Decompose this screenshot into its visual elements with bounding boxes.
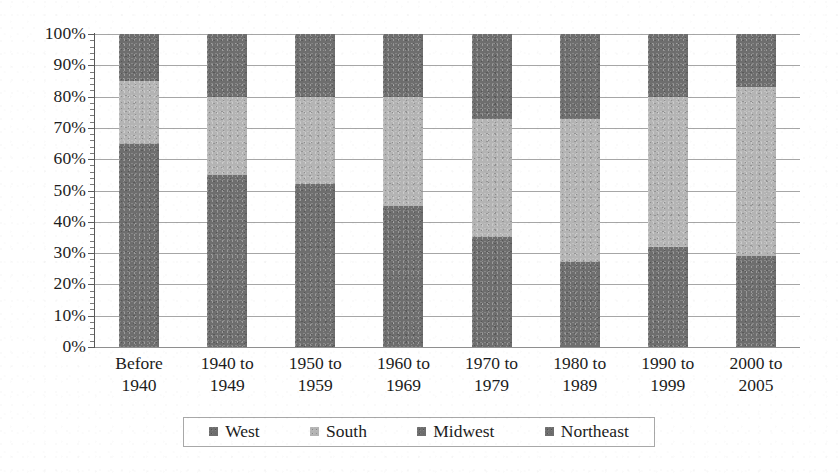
bar-segment-south[interactable] — [648, 97, 688, 247]
bar-group[interactable] — [472, 34, 512, 347]
y-axis-tick-label: 50% — [54, 182, 86, 200]
bar-segment-west[interactable] — [119, 34, 159, 81]
x-axis-tick-label-line: 1970 to — [448, 352, 536, 374]
x-axis-tick-label-line: 1959 — [271, 374, 359, 396]
bar-segment-northeast[interactable] — [383, 272, 423, 347]
bar-segment-midwest[interactable] — [295, 184, 335, 259]
stacked-bar[interactable] — [736, 34, 776, 347]
y-axis-tick-label: 10% — [54, 307, 86, 325]
x-axis-tick-label-line: 1940 — [95, 374, 183, 396]
stacked-bar[interactable] — [207, 34, 247, 347]
axis-baseline — [95, 347, 800, 348]
bar-group[interactable] — [295, 34, 335, 347]
bar-segment-midwest[interactable] — [736, 256, 776, 294]
x-axis-tick-label-line: 1940 to — [183, 352, 271, 374]
gridline — [95, 159, 800, 160]
square-swatch-icon — [417, 427, 426, 436]
x-axis-tick-label-line: 1950 to — [271, 352, 359, 374]
x-axis-tick-label-line: 1980 to — [536, 352, 624, 374]
bar-segment-south[interactable] — [383, 97, 423, 207]
x-axis-tick-label-line: 1949 — [183, 374, 271, 396]
bar-segment-midwest[interactable] — [207, 175, 247, 256]
y-axis-tick-label: 20% — [54, 276, 86, 294]
bar-segment-northeast[interactable] — [472, 288, 512, 347]
bar-segment-south[interactable] — [119, 81, 159, 144]
bar-group[interactable] — [383, 34, 423, 347]
x-axis-tick-label: 1940 to1949 — [183, 352, 271, 396]
legend-item-label: Northeast — [561, 423, 629, 441]
bar-segment-west[interactable] — [560, 34, 600, 119]
x-axis-tick-label-line: 1979 — [448, 374, 536, 396]
bar-group[interactable] — [119, 34, 159, 347]
bar-segment-northeast[interactable] — [736, 294, 776, 347]
bar-segment-midwest[interactable] — [383, 206, 423, 272]
x-axis-labels: Before19401940 to19491950 to19591960 to1… — [95, 352, 800, 402]
bar-segment-west[interactable] — [648, 34, 688, 97]
bar-segment-northeast[interactable] — [560, 303, 600, 347]
bar-group[interactable] — [648, 34, 688, 347]
bar-segment-south[interactable] — [560, 119, 600, 263]
square-swatch-icon — [209, 427, 218, 436]
gridline — [95, 253, 800, 254]
x-axis-tick-label-line: 1999 — [624, 374, 712, 396]
bar-segment-south[interactable] — [207, 97, 247, 175]
x-axis-tick-label: 1990 to1999 — [624, 352, 712, 396]
legend-item-label: Midwest — [433, 423, 494, 441]
bar-segment-west[interactable] — [295, 34, 335, 97]
y-axis-tick-label: 100% — [45, 25, 86, 43]
x-axis-tick-label-line: 2005 — [712, 374, 800, 396]
x-axis-tick-label-line: Before — [95, 352, 183, 374]
bar-segment-northeast[interactable] — [295, 259, 335, 347]
bar-segment-midwest[interactable] — [119, 144, 159, 238]
y-axis-tick-label: 40% — [54, 213, 86, 231]
x-axis-tick-label: 1970 to1979 — [448, 352, 536, 396]
gridline — [95, 284, 800, 285]
y-axis-tick-label: 90% — [54, 57, 86, 75]
bar-segment-west[interactable] — [207, 34, 247, 97]
bar-segment-northeast[interactable] — [207, 256, 247, 347]
legend-item-label: South — [326, 423, 367, 441]
x-axis-tick-label-line: 1989 — [536, 374, 624, 396]
bar-group[interactable] — [736, 34, 776, 347]
legend-item-south[interactable]: South — [310, 423, 367, 441]
bar-segment-northeast[interactable] — [648, 291, 688, 347]
gridline — [95, 316, 800, 317]
stacked-bar[interactable] — [383, 34, 423, 347]
bar-segment-midwest[interactable] — [648, 247, 688, 291]
bar-segment-south[interactable] — [295, 97, 335, 185]
gridline — [95, 128, 800, 129]
bar-segment-south[interactable] — [472, 119, 512, 238]
bar-segment-west[interactable] — [472, 34, 512, 119]
x-axis-tick-label: 1960 to1969 — [359, 352, 447, 396]
bar-segment-midwest[interactable] — [560, 262, 600, 303]
x-axis-tick-label-line: 1990 to — [624, 352, 712, 374]
square-swatch-icon — [545, 427, 554, 436]
plot-area — [95, 34, 800, 347]
x-axis-tick-label: 1980 to1989 — [536, 352, 624, 396]
bar-group[interactable] — [207, 34, 247, 347]
gridline — [95, 65, 800, 66]
stacked-bar[interactable] — [648, 34, 688, 347]
legend-item-midwest[interactable]: Midwest — [417, 423, 494, 441]
x-axis-tick-label: Before1940 — [95, 352, 183, 396]
gridline — [95, 34, 800, 35]
y-axis-labels: 0%10%20%30%40%50%60%70%80%90%100% — [18, 34, 86, 347]
stacked-bar[interactable] — [295, 34, 335, 347]
bar-segment-west[interactable] — [383, 34, 423, 97]
stacked-bar[interactable] — [560, 34, 600, 347]
stacked-bar[interactable] — [119, 34, 159, 347]
x-axis-tick-label-line: 1969 — [359, 374, 447, 396]
x-axis-tick-label: 1950 to1959 — [271, 352, 359, 396]
stacked-bar[interactable] — [472, 34, 512, 347]
legend-item-northeast[interactable]: Northeast — [545, 423, 629, 441]
bar-group[interactable] — [560, 34, 600, 347]
legend-item-label: West — [225, 423, 260, 441]
bar-segment-south[interactable] — [736, 87, 776, 256]
y-axis-tick-label: 60% — [54, 150, 86, 168]
x-axis-tick-label: 2000 to2005 — [712, 352, 800, 396]
bar-segment-west[interactable] — [736, 34, 776, 87]
square-swatch-icon — [310, 427, 319, 436]
bar-segment-northeast[interactable] — [119, 237, 159, 347]
legend-item-west[interactable]: West — [209, 423, 260, 441]
bar-segment-midwest[interactable] — [472, 237, 512, 287]
